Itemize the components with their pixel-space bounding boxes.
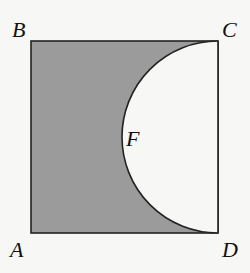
label-f: F xyxy=(125,126,140,151)
label-b: B xyxy=(12,17,25,42)
label-d: D xyxy=(221,237,238,262)
label-c: C xyxy=(222,17,237,42)
label-a: A xyxy=(8,237,24,262)
square-semicircle-diagram: B C A D F xyxy=(0,0,250,273)
